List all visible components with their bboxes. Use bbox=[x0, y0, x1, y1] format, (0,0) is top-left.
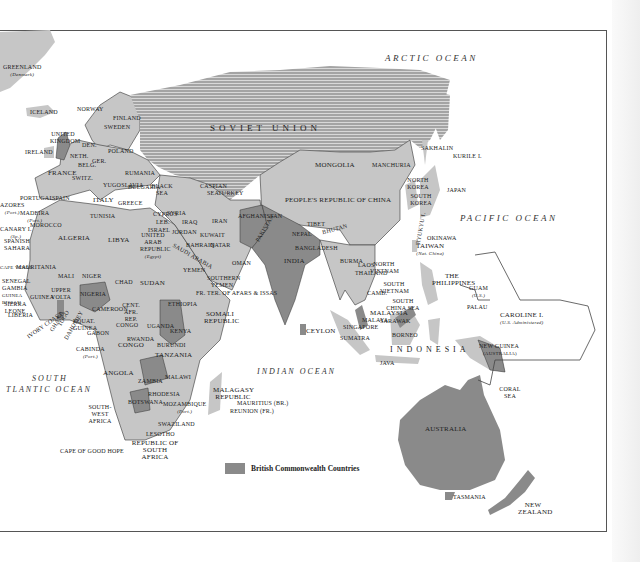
gambia-label: GAMBIA bbox=[2, 285, 28, 292]
tunisia-label: TUNISIA bbox=[90, 213, 115, 220]
indonesia-label: INDONESIA bbox=[390, 346, 470, 353]
greenland-label: GREENLAND(Denmark) bbox=[3, 64, 41, 78]
tanzania-label: TANZANIA bbox=[155, 352, 192, 359]
algeria-label: ALGERIA bbox=[58, 235, 90, 242]
italy-label: ITALY bbox=[93, 197, 114, 204]
congo-label-1: CONGO bbox=[116, 322, 138, 329]
japan-landmass bbox=[420, 165, 440, 218]
taiwan-label: TAIWAN(Nat. China) bbox=[416, 243, 444, 257]
afars-label: FR. TER. OF AFARS & ISSAS bbox=[196, 290, 277, 297]
ethiopia-label: ETHIOPIA bbox=[168, 301, 197, 308]
cabinda-label: CABINDA(Port.) bbox=[76, 346, 105, 360]
greenland-landmass bbox=[0, 30, 55, 92]
somali-label: SOMALI REPUBLIC bbox=[204, 311, 236, 325]
car-label: CENT. AFR. REP. bbox=[118, 302, 144, 323]
liberia-label: LIBERIA bbox=[8, 312, 33, 319]
south-vietnam-label: SOUTH VIETNAM bbox=[380, 281, 408, 295]
sakhalin-label: SAKHALIN bbox=[421, 145, 453, 152]
libya-label: LIBYA bbox=[108, 237, 130, 244]
thailand-label: THAILAND bbox=[355, 270, 369, 277]
spanish-sahara-label: SPANISH SAHARA bbox=[4, 238, 30, 252]
congo-label-2: CONGO bbox=[118, 342, 144, 349]
world-map bbox=[0, 0, 640, 562]
sakhalin-landmass bbox=[422, 140, 428, 165]
zambia-label: ZAMBIA bbox=[138, 378, 163, 385]
new-guinea-label: NEW GUINEA bbox=[479, 343, 519, 350]
yemen-label: YEMEN bbox=[183, 267, 205, 274]
norway-label: NORWAY bbox=[77, 106, 104, 113]
celebes-landmass bbox=[428, 318, 440, 345]
japan-label: JAPAN bbox=[447, 187, 466, 194]
kurile-label: KURILE I. bbox=[453, 153, 482, 160]
uk-label: UNITED KINGDOM bbox=[50, 131, 76, 145]
ceylon-label: CEYLON bbox=[306, 328, 336, 335]
switzerland-label: SWITZ. bbox=[72, 175, 93, 182]
china-label: PEOPLE'S REPUBLIC OF CHINA bbox=[285, 197, 391, 204]
cape-verde-label: CAPE VERDE bbox=[0, 264, 33, 271]
morocco-label: MOROCCO bbox=[30, 222, 62, 229]
lebanon-label: LEB. bbox=[156, 219, 170, 226]
australia-label: AUSTRALIA bbox=[425, 426, 466, 433]
manchuria-label: MANCHURIA bbox=[372, 162, 411, 169]
sumatra-label: SUMATRA bbox=[340, 335, 370, 342]
south-atlantic-label-2: TLANTIC OCEAN bbox=[6, 386, 92, 393]
tibet-label: TIBET bbox=[307, 221, 325, 228]
new-zealand-label: NEW ZEALAND bbox=[518, 502, 548, 516]
spain-label: SPAIN bbox=[52, 195, 70, 202]
southern-yemen-label: SOUTHERN YEMEN bbox=[207, 275, 237, 289]
borneo-label: BORNEO bbox=[392, 332, 418, 339]
iceland-label: ICELAND bbox=[30, 109, 58, 116]
bulgaria-label: BULGARIA bbox=[128, 184, 161, 191]
denmark-label: DEN. bbox=[82, 142, 97, 149]
reunion-label: REUNION (Fr.) bbox=[230, 408, 274, 415]
chad-label: CHAD bbox=[115, 279, 133, 286]
singapore-label: SINGAPORE bbox=[343, 324, 378, 331]
burundi-label: BURUNDI bbox=[157, 342, 186, 349]
indian-ocean-label: INDIAN OCEAN bbox=[257, 368, 336, 375]
palau-label: PALAU bbox=[467, 304, 487, 311]
sarawak-label: SARAWAK bbox=[380, 318, 411, 325]
kuwait-label: KUWAIT bbox=[200, 232, 225, 239]
caroline-label: CAROLINE I.(U.S. Administered) bbox=[500, 312, 543, 326]
sw-africa-label: SOUTH-WEST AFRICA bbox=[82, 404, 118, 425]
india-label: INDIA bbox=[284, 258, 305, 265]
upper-volta-label: UPPER VOLTA bbox=[50, 287, 72, 301]
rwanda-label: RWANDA bbox=[127, 336, 154, 343]
yugoslavia-label: YUGOSLAVIA bbox=[103, 182, 129, 189]
mozambique-label: MOZAMBIQUE(Port.) bbox=[163, 401, 206, 415]
sweden-label: SWEDEN bbox=[104, 124, 130, 131]
iran-label: IRAN bbox=[212, 218, 227, 225]
nigeria-label: NIGERIA bbox=[80, 291, 106, 298]
pacific-ocean-label: PACIFIC OCEAN bbox=[460, 215, 558, 222]
south-africa-label: REPUBLIC OF SOUTH AFRICA bbox=[130, 440, 180, 461]
malagasy-label: MALAGASY REPUBLIC bbox=[213, 387, 253, 401]
jordan-label: JORDAN bbox=[172, 229, 197, 236]
bangladesh-label: BANGLADESH bbox=[295, 245, 338, 252]
qatar-label: QATAR bbox=[210, 242, 231, 249]
north-korea-label: NORTH KOREA bbox=[407, 177, 429, 191]
rhodesia-label: RHODESIA bbox=[148, 391, 180, 398]
sudan-label: SUDAN bbox=[140, 280, 165, 287]
senegal-label: SENEGAL bbox=[2, 278, 31, 285]
gabon-label: GABON bbox=[87, 330, 109, 337]
swaziland-label: SWAZILAND bbox=[158, 421, 195, 428]
cameroon-label: CAMEROON bbox=[92, 306, 114, 313]
kenya-label: KENYA bbox=[170, 328, 191, 335]
netherlands-label: NETH. bbox=[70, 153, 89, 160]
finland-label: FINLAND bbox=[113, 115, 141, 122]
nepal-label: NEPAL bbox=[292, 231, 312, 238]
java-label: JAVA bbox=[380, 360, 395, 367]
greece-label: GREECE bbox=[118, 200, 143, 207]
rumania-label: RUMANIA bbox=[125, 170, 145, 177]
lesotho-label: LESOTHO bbox=[146, 431, 175, 438]
syria-label: SYRIA bbox=[167, 210, 186, 217]
commonwealth-swatch bbox=[225, 463, 245, 474]
legend-label: British Commonwealth Countries bbox=[251, 464, 359, 473]
oman-label: OMAN bbox=[232, 260, 251, 267]
coral-sea-label: CORAL SEA bbox=[497, 386, 523, 400]
niger-label: NIGER bbox=[82, 273, 101, 280]
ireland-label: IRELAND bbox=[25, 149, 53, 156]
germany-label: GER. bbox=[92, 158, 106, 165]
poland-label: POLAND bbox=[108, 148, 134, 155]
mongolia-label: MONGOLIA bbox=[315, 162, 355, 169]
